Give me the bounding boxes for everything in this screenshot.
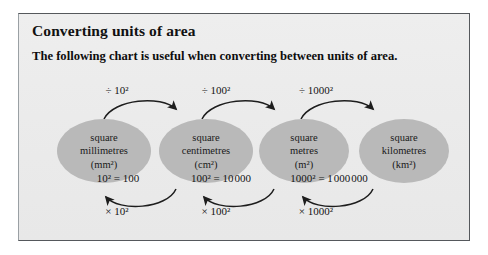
- multiply-label-1: × 10²: [87, 205, 147, 217]
- node-line-3: (mm²): [91, 158, 117, 171]
- equation-2: 100² = 10 000: [175, 172, 267, 184]
- divide-arrow-3: [301, 101, 373, 119]
- node-line-2: millimetres: [80, 144, 128, 157]
- node-line-1: square: [390, 131, 417, 144]
- node-line-2: metres: [290, 144, 318, 157]
- node-line-2: centimetres: [182, 144, 230, 157]
- node-line-2: kilometres: [382, 144, 426, 157]
- node-line-3: (km²): [392, 158, 416, 171]
- divide-label-2: ÷ 100²: [183, 84, 249, 96]
- equation-3: 1000² = 1 000 000: [269, 172, 389, 184]
- equation-1: 10² = 100: [81, 172, 155, 184]
- divide-arrow-2: [202, 101, 274, 119]
- divide-label-1: ÷ 10²: [87, 84, 147, 96]
- unit-conversion-diagram: ÷ 10² ÷ 100² ÷ 1000² square millimetres …: [19, 14, 470, 241]
- node-line-1: square: [290, 131, 317, 144]
- node-line-1: square: [192, 131, 219, 144]
- screenshot-root: Converting units of area The following c…: [0, 0, 488, 255]
- multiply-label-2: × 100²: [183, 205, 249, 217]
- divide-arrow-1: [104, 101, 176, 119]
- content-panel: Converting units of area The following c…: [18, 13, 470, 241]
- node-line-1: square: [90, 131, 117, 144]
- node-line-3: (cm²): [195, 158, 218, 171]
- multiply-label-3: × 1000²: [279, 205, 353, 217]
- multiply-arrow-3: [303, 189, 373, 206]
- node-line-3: (m²): [295, 158, 313, 171]
- divide-label-3: ÷ 1000²: [279, 84, 353, 96]
- multiply-arrow-1: [106, 189, 176, 206]
- multiply-arrow-2: [204, 189, 274, 206]
